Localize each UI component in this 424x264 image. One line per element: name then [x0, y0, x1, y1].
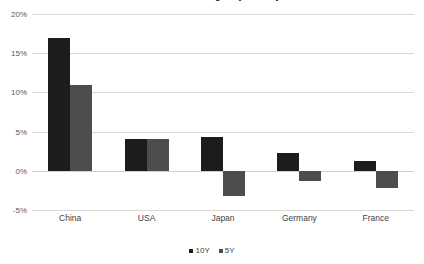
- y-axis-tick-label: 0%: [0, 167, 27, 176]
- gridline: [32, 210, 414, 211]
- x-axis-tick-label: China: [30, 213, 110, 224]
- bar-germany-5y: [299, 171, 321, 181]
- gridline: [32, 14, 414, 15]
- x-axis-tick-label: France: [336, 213, 416, 224]
- bar-china-10y: [48, 38, 70, 171]
- bar-japan-10y: [201, 137, 223, 171]
- x-axis-tick-label: Japan: [183, 213, 263, 224]
- y-axis-tick-label: 10%: [0, 88, 27, 97]
- plot-area: [32, 14, 414, 210]
- x-axis-tick-label: Germany: [259, 213, 339, 224]
- legend-label: 5Y: [225, 246, 235, 255]
- y-axis-tick-label: 15%: [0, 49, 27, 58]
- bar-germany-10y: [277, 153, 299, 171]
- chart-title: Bond Yield Changes by Country: [0, 0, 424, 1]
- chart-legend: 10Y5Y: [0, 246, 424, 255]
- bar-chart: Bond Yield Changes by Country 20%15%10%5…: [0, 0, 424, 264]
- y-axis-tick-label: 20%: [0, 10, 27, 19]
- bar-france-10y: [354, 161, 376, 170]
- x-axis-tick-label: USA: [107, 213, 187, 224]
- bar-usa-5y: [147, 139, 169, 170]
- y-axis-tick-label: 5%: [0, 128, 27, 137]
- bar-china-5y: [70, 85, 92, 171]
- legend-item-5y[interactable]: 5Y: [219, 246, 235, 255]
- gridline: [32, 53, 414, 54]
- bar-japan-5y: [223, 171, 245, 196]
- legend-label: 10Y: [195, 246, 209, 255]
- legend-item-10y[interactable]: 10Y: [189, 246, 209, 255]
- y-axis-tick-label: -5%: [0, 206, 27, 215]
- bar-usa-10y: [125, 139, 147, 170]
- legend-swatch-icon: [219, 249, 223, 253]
- bar-france-5y: [376, 171, 398, 188]
- legend-swatch-icon: [189, 249, 193, 253]
